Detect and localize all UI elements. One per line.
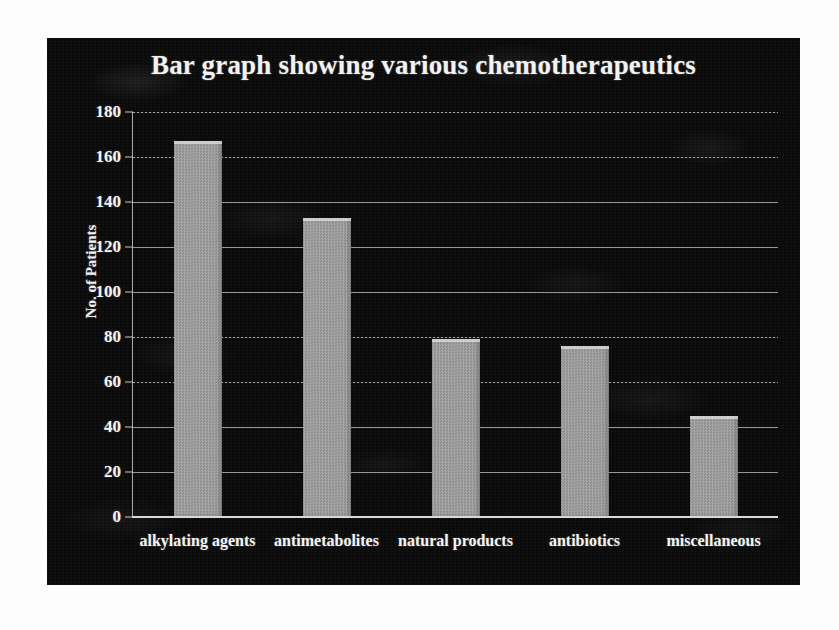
y-axis-line [132, 112, 133, 517]
gridline [133, 112, 778, 113]
gridline [133, 202, 778, 203]
y-tick-label: 80 [104, 327, 121, 347]
bar [303, 218, 351, 517]
y-tick-label: 160 [96, 147, 122, 167]
y-axis-title: No. of Patients [83, 192, 100, 352]
bar [174, 141, 222, 517]
bar [432, 339, 480, 517]
x-category-label: alkylating agents [123, 531, 273, 551]
bar [690, 416, 738, 517]
bar [561, 346, 609, 517]
chart-panel: Bar graph showing various chemotherapeut… [47, 38, 800, 585]
gridline [133, 292, 778, 293]
gridline [133, 157, 778, 158]
y-tick-label: 180 [96, 102, 122, 122]
x-category-label: miscellaneous [639, 531, 789, 551]
x-axis-line [132, 516, 778, 518]
plot-area: 020406080100120140160180 alkylating agen… [133, 112, 778, 517]
chart-title: Bar graph showing various chemotherapeut… [47, 50, 800, 81]
x-category-label: natural products [381, 531, 531, 551]
chart-page: Bar graph showing various chemotherapeut… [0, 0, 839, 630]
x-category-label: antimetabolites [252, 531, 402, 551]
gridline [133, 247, 778, 248]
gridline [133, 337, 778, 338]
y-tick-label: 20 [104, 462, 121, 482]
y-tick-label: 0 [113, 507, 122, 527]
x-category-label: antibiotics [510, 531, 660, 551]
y-tick-label: 40 [104, 417, 121, 437]
y-tick-label: 60 [104, 372, 121, 392]
